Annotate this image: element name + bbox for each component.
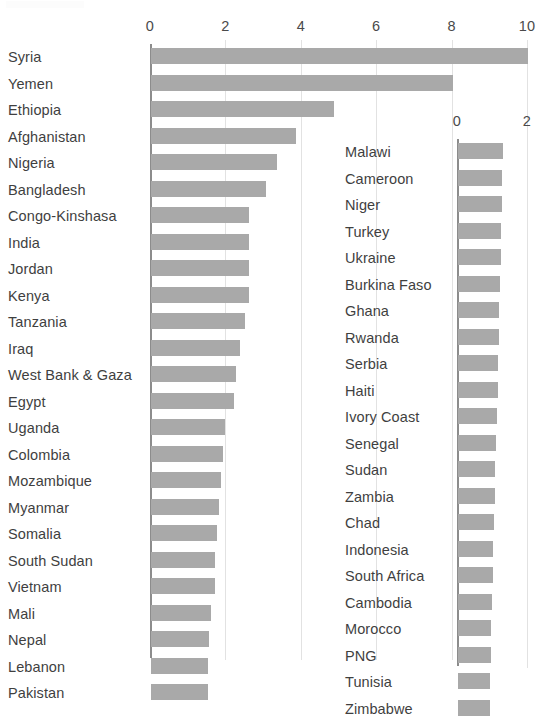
right-bar: [458, 382, 498, 398]
right-category-label: Tunisia: [345, 675, 392, 690]
right-category-label: Chad: [345, 516, 380, 531]
right-bar: [458, 329, 499, 345]
right-category-label: Rwanda: [345, 331, 399, 346]
right-category-label: Sudan: [345, 463, 387, 478]
right-bar: [458, 620, 491, 636]
right-category-label: Morocco: [345, 622, 401, 637]
right-bar: [458, 302, 499, 318]
right-category-label: Ghana: [345, 304, 389, 319]
left-category-label: Pakistan: [8, 686, 64, 701]
left-bar: [151, 684, 208, 700]
right-category-label: Zimbabwe: [345, 702, 413, 717]
right-bar: [458, 514, 494, 530]
right-bar: [458, 673, 490, 689]
right-bar: [458, 488, 495, 504]
right-bar: [458, 276, 500, 292]
right-category-label: Indonesia: [345, 543, 409, 558]
right-bar: [458, 196, 502, 212]
right-category-label: Burkina Faso: [345, 278, 432, 293]
right-bar: [458, 223, 501, 239]
right-category-label: Zambia: [345, 490, 394, 505]
right-category-label: Senegal: [345, 437, 399, 452]
right-bar: [458, 567, 493, 583]
right-category-label: Cameroon: [345, 172, 414, 187]
right-category-label: Serbia: [345, 357, 388, 372]
right-category-label: Niger: [345, 198, 380, 213]
right-category-label: South Africa: [345, 569, 424, 584]
right-category-label: Cambodia: [345, 596, 412, 611]
right-gridline: [527, 135, 528, 668]
right-bar: [458, 249, 501, 265]
right-zero-axis-line: [457, 139, 459, 666]
right-bar: [458, 541, 493, 557]
right-bar: [458, 143, 503, 159]
right-bar: [458, 700, 490, 716]
right-bar: [458, 461, 495, 477]
right-bar: [458, 594, 492, 610]
right-category-label: PNG: [345, 649, 377, 664]
right-bar: [458, 170, 502, 186]
right-bar: [458, 647, 491, 663]
right-category-label: Ivory Coast: [345, 410, 419, 425]
right-bar: [458, 435, 496, 451]
right-category-label: Turkey: [345, 225, 389, 240]
right-category-label: Ukraine: [345, 251, 396, 266]
right-category-label: Haiti: [345, 384, 375, 399]
right-xtick-label: 2: [523, 113, 531, 129]
right-bar: [458, 355, 498, 371]
right-category-label: Malawi: [345, 145, 391, 160]
right-bar: [458, 408, 497, 424]
right-xtick-label: 0: [453, 113, 461, 129]
